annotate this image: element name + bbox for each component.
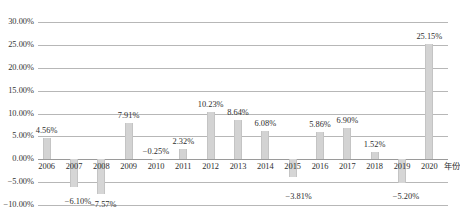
x-axis-tick-2011: 2011 [175,163,191,171]
x-axis-tick-2006: 2006 [38,163,55,171]
gridline [38,91,448,92]
value-label-2016: 5.86% [309,121,331,129]
value-label-2010: −0.25% [143,148,169,156]
y-axis-tick-label: 30.00% [8,18,34,26]
x-axis-tick-2014: 2014 [257,163,274,171]
y-axis-tick-label: −10.00% [3,201,34,209]
value-label-2018: 1.52% [364,141,386,149]
x-axis-tick-2013: 2013 [230,163,247,171]
x-axis-tick-2007: 2007 [66,163,83,171]
value-label-2009: 7.91% [118,112,140,120]
x-axis-tick-2012: 2012 [202,163,219,171]
gridline [38,136,448,137]
value-label-2015: −3.81% [285,193,311,201]
bar-2011[interactable] [179,149,187,160]
value-label-2014: 6.08% [255,120,277,128]
bar-2012[interactable] [207,112,215,159]
bar-2014[interactable] [261,131,269,159]
y-axis-tick-label: 5.00% [12,132,34,140]
bar-2013[interactable] [234,120,242,160]
x-axis-tick-2020: 2020 [421,163,438,171]
x-axis-tick-2019: 2019 [394,163,411,171]
bar-2010[interactable] [152,159,160,160]
y-axis-tick-label: 25.00% [8,41,34,49]
value-label-2013: 8.64% [227,109,249,117]
x-axis-tick-2018: 2018 [366,163,383,171]
value-label-2020: 25.15% [416,33,442,41]
bar-2020[interactable] [425,44,433,159]
value-label-2007: −6.10% [65,198,91,206]
bar-2018[interactable] [371,152,379,159]
value-label-2019: −5.20% [393,193,419,201]
plot-area: 4.56%2006−6.10%2007−7.57%20087.91%2009−0… [38,22,448,205]
x-axis-tick-2016: 2016 [312,163,329,171]
x-axis-tick-2017: 2017 [339,163,356,171]
y-axis-tick-label: 0.00% [12,155,34,163]
x-axis-tick-2010: 2010 [148,163,165,171]
gridline [38,22,448,23]
value-label-2006: 4.56% [36,127,58,135]
bar-2017[interactable] [343,128,351,160]
value-label-2011: 2.32% [173,138,195,146]
gridline [38,68,448,69]
y-axis-tick-label: 15.00% [8,86,34,94]
bar-2016[interactable] [316,132,324,159]
x-axis-tick-2009: 2009 [120,163,137,171]
x-axis-tick-2008: 2008 [93,163,110,171]
gridline [38,45,448,46]
value-label-2017: 6.90% [337,117,359,125]
y-axis-tick-label: 20.00% [8,64,34,72]
y-axis-tick-label: 10.00% [8,109,34,117]
x-axis-tick-2015: 2015 [284,163,301,171]
y-axis: 30.00%25.00%20.00%15.00%10.00%5.00%0.00%… [0,0,38,222]
value-label-2008: −7.57% [90,201,116,209]
x-axis-title: 年份 [444,163,460,171]
value-label-2012: 10.23% [198,101,224,109]
bar-2006[interactable] [43,138,51,159]
y-axis-tick-label: −5.00% [8,178,34,186]
bar-2009[interactable] [125,123,133,159]
